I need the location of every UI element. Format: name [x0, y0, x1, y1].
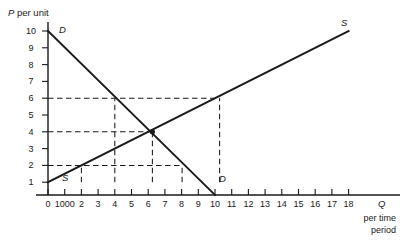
x-tick-label-4: 4 — [107, 199, 123, 209]
x-tick-label-11: 11 — [223, 199, 241, 209]
supply-label-top: S — [341, 18, 347, 28]
x-tick-label-6: 6 — [140, 199, 156, 209]
x-tick-label-5: 5 — [124, 199, 140, 209]
x-tick-label-9: 9 — [190, 199, 206, 209]
y-tick-label-8: 8 — [22, 60, 40, 70]
x-axis-title: Q — [378, 199, 385, 209]
y-tick-label-4: 4 — [22, 127, 40, 137]
y-tick-label-7: 7 — [22, 76, 40, 86]
y-tick-label-1: 1 — [22, 177, 40, 187]
supply-demand-chart: P per unit 10 9 8 7 6 5 4 3 2 1 0 1000 2… — [0, 0, 412, 245]
x-tick-label-14: 14 — [273, 199, 291, 209]
x-tick-label-2: 2 — [73, 199, 89, 209]
axes — [36, 22, 400, 195]
y-axis-ticks — [42, 31, 48, 182]
x-tick-label-8: 8 — [174, 199, 190, 209]
x-tick-label-18: 18 — [340, 199, 358, 209]
x-axis-ticks — [48, 189, 349, 195]
demand-label-top: D — [59, 25, 66, 35]
x-tick-label-15: 15 — [290, 199, 308, 209]
y-tick-label-10: 10 — [22, 26, 40, 36]
y-tick-label-2: 2 — [22, 160, 40, 170]
demand-label-bottom: D — [219, 174, 226, 184]
x-tick-label-12: 12 — [239, 199, 257, 209]
y-axis-title: P per unit — [8, 8, 49, 18]
x-tick-label-13: 13 — [256, 199, 274, 209]
x-axis-subtitle-line2: period — [333, 225, 396, 235]
supply-curve — [48, 31, 349, 182]
x-axis-subtitle-line1: per time — [333, 213, 396, 223]
y-tick-label-3: 3 — [22, 144, 40, 154]
equilibrium-point — [150, 129, 155, 134]
y-tick-label-6: 6 — [22, 93, 40, 103]
y-tick-label-5: 5 — [22, 110, 40, 120]
x-tick-label-17: 17 — [323, 199, 341, 209]
curves — [48, 31, 349, 195]
x-tick-label-3: 3 — [90, 199, 106, 209]
y-tick-label-9: 9 — [22, 43, 40, 53]
y-axis-title-units: per unit — [14, 7, 48, 18]
supply-label-bottom: S — [62, 173, 68, 183]
x-tick-label-16: 16 — [306, 199, 324, 209]
x-tick-label-10: 10 — [206, 199, 224, 209]
x-tick-label-7: 7 — [157, 199, 173, 209]
